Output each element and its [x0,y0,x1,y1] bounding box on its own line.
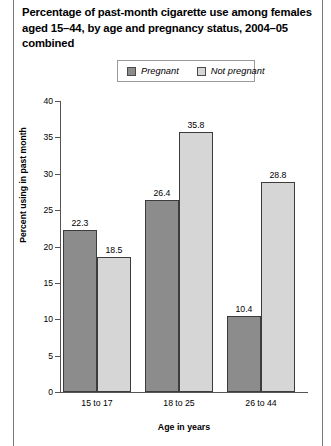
y-tick-label: 10 [13,314,53,324]
chart-title: Percentage of past-month cigarette use a… [22,5,318,52]
y-tick-mark [55,392,60,393]
legend-swatch-pregnant [127,67,136,76]
y-axis-tick-labels: 0510152025303540 [8,0,53,446]
y-tick-label: 0 [13,387,53,397]
y-tick-mark [55,356,60,357]
x-category-label: 26 to 44 [215,398,307,408]
chart-figure: Percentage of past-month cigarette use a… [0,0,331,446]
y-tick-mark [55,247,60,248]
x-axis-label: Age in years [61,422,307,432]
legend-item-pregnant: Pregnant [127,66,179,76]
bar-value-label: 18.5 [91,245,137,255]
y-tick-mark [55,283,60,284]
legend-label-pregnant: Pregnant [141,66,179,76]
bar-value-label: 28.8 [255,170,301,180]
y-tick-mark [55,319,60,320]
y-tick-mark [55,174,60,175]
bar [97,257,131,392]
legend-item-not-pregnant: Not pregnant [197,66,265,76]
bar [261,182,295,392]
legend-swatch-not-pregnant [197,67,206,76]
bar [179,132,213,392]
bar-value-label: 35.8 [173,120,219,130]
x-category-label: 15 to 17 [51,398,143,408]
page-rule-right [322,0,323,446]
y-tick-label: 40 [13,96,53,106]
y-tick-mark [55,137,60,138]
y-tick-label: 5 [13,351,53,361]
plot-area: 22.318.526.435.810.428.8 [61,101,307,392]
x-category-label: 18 to 25 [133,398,225,408]
y-tick-label: 15 [13,278,53,288]
x-axis-line [60,392,308,393]
legend-label-not-pregnant: Not pregnant [211,66,265,76]
bar-value-label: 22.3 [57,218,103,228]
bar [227,316,261,392]
y-tick-mark [55,101,60,102]
chart-legend: Pregnant Not pregnant [117,60,255,82]
y-axis-label: Percent using in past month [18,120,28,250]
bar [145,200,179,392]
y-tick-mark [55,210,60,211]
